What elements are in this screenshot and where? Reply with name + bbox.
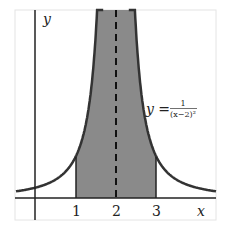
x-tick-3: 3 — [152, 203, 161, 219]
curve-label-numerator: 1 — [180, 99, 185, 108]
chart: y x 1 2 3 y = 1 (x−2)² — [0, 0, 229, 232]
x-tick-2: 2 — [112, 203, 121, 219]
curve-label-lhs: y = — [145, 101, 170, 117]
x-axis-label: x — [197, 203, 205, 219]
x-tick-1: 1 — [72, 203, 81, 219]
y-axis-label: y — [42, 11, 52, 27]
curve-label-denominator: (x−2)² — [170, 110, 196, 119]
